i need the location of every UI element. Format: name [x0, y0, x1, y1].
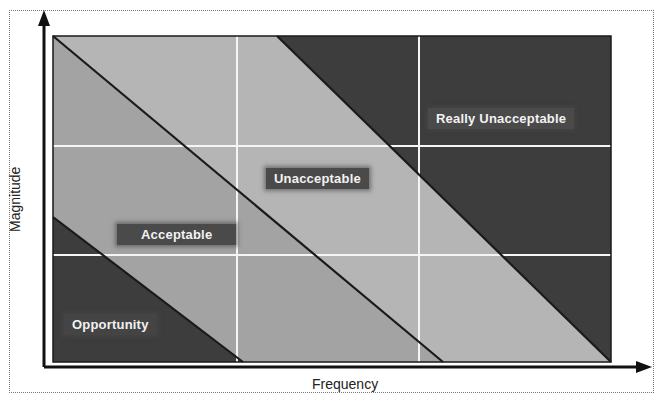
y-axis-label: Magnitude: [7, 167, 23, 232]
opportunity-label: Opportunity: [64, 314, 157, 335]
x-axis-label: Frequency: [312, 376, 378, 392]
risk-matrix-diagram: [0, 0, 664, 402]
really-unacceptable-label: Really Unacceptable: [428, 108, 574, 129]
x-axis-arrow-icon: [636, 361, 652, 373]
acceptable-label: Acceptable: [117, 224, 236, 245]
unacceptable-label: Unacceptable: [266, 168, 369, 189]
y-axis-arrow-icon: [38, 10, 50, 26]
